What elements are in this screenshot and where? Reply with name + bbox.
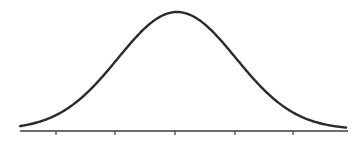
density-curve (20, 12, 346, 128)
bell-curve-chart (0, 0, 362, 151)
